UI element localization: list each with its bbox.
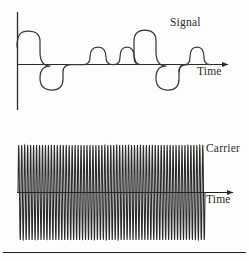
signal-time-axis-label: Time (197, 66, 222, 78)
carrier-label: Carrier (206, 143, 240, 155)
waveform-figure (0, 0, 249, 261)
page-bottom-rule (3, 252, 246, 253)
signal-label: Signal (170, 17, 201, 29)
carrier-waveform-curve (18, 145, 205, 240)
carrier-panel (17, 145, 233, 240)
signal-waveform-curve (17, 30, 188, 90)
figure-container: Signal Time Carrier Time (0, 0, 249, 261)
carrier-time-axis-label: Time (206, 194, 231, 206)
